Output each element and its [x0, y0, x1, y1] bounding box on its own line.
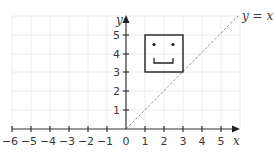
- x-axis-label: x: [233, 134, 240, 148]
- x-tick-labels: −6 −5 −4 −3 −2 −1 0 1 2 3 4 5: [2, 135, 225, 148]
- x-axis: [12, 126, 234, 132]
- svg-text:5: 5: [218, 135, 225, 148]
- coordinate-diagram: y = x −6 −5 −4 −3 −2 −1 0 1 2 3 4: [0, 0, 276, 155]
- svg-text:5: 5: [113, 29, 120, 42]
- smiley-right-eye: [171, 43, 174, 46]
- svg-text:3: 3: [180, 135, 187, 148]
- smiley-left-eye: [152, 43, 155, 46]
- svg-text:2: 2: [161, 135, 168, 148]
- svg-text:1: 1: [142, 135, 149, 148]
- svg-text:−3: −3: [59, 135, 75, 148]
- svg-text:−4: −4: [40, 135, 56, 148]
- y-axis: [123, 22, 129, 129]
- svg-text:1: 1: [113, 104, 120, 117]
- svg-text:4: 4: [199, 135, 206, 148]
- mirror-line-label: y = x: [241, 9, 273, 23]
- svg-text:3: 3: [113, 66, 120, 79]
- svg-text:4: 4: [113, 48, 120, 61]
- x-axis-arrow-icon: [232, 126, 240, 133]
- y-axis-label: y: [115, 13, 123, 27]
- svg-text:−6: −6: [2, 135, 18, 148]
- svg-text:−5: −5: [21, 135, 37, 148]
- svg-text:−2: −2: [78, 135, 94, 148]
- svg-text:−1: −1: [97, 135, 113, 148]
- svg-text:2: 2: [113, 85, 120, 98]
- y-tick-labels: 1 2 3 4 5: [113, 29, 120, 117]
- svg-text:0: 0: [123, 135, 130, 148]
